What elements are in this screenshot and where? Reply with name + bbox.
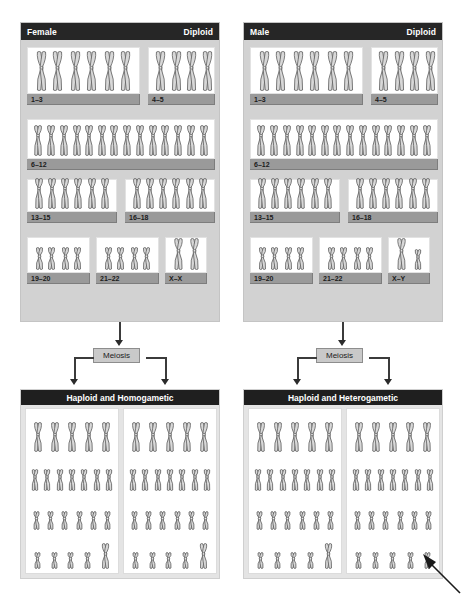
chromosome-icon xyxy=(326,247,337,270)
meiosis-label-box: Meiosis xyxy=(93,348,140,363)
chromosome-icon xyxy=(400,469,410,491)
arrowhead-icon xyxy=(384,379,392,385)
chromosome-icon xyxy=(423,51,438,91)
chromosome-icon xyxy=(315,469,325,491)
connector-line xyxy=(297,357,317,359)
chromosome-icon xyxy=(202,469,212,491)
chromosome-icon xyxy=(141,247,152,270)
chromosome-icon xyxy=(68,51,83,91)
male-ploidy-label: Diploid xyxy=(407,27,437,37)
chromosome-icon xyxy=(144,178,156,209)
chromosome-icon xyxy=(148,552,157,569)
chromosome-pair xyxy=(34,51,65,91)
chromosome-pair xyxy=(157,178,182,209)
chromosome-pair xyxy=(354,178,379,209)
chromosome-icon xyxy=(294,125,306,156)
gamete-chromosome-row xyxy=(350,452,436,491)
chromosome-icon xyxy=(86,178,98,209)
meiosis-label-box: Meiosis xyxy=(316,348,363,363)
chromosome-pair xyxy=(129,247,152,270)
chromosome-icon xyxy=(363,469,373,491)
chromosome-icon xyxy=(104,469,114,491)
chromosome-icon xyxy=(404,422,416,452)
chromosome-icon xyxy=(79,469,89,491)
chromosome-icon xyxy=(33,552,42,569)
chromosome-icon xyxy=(128,469,138,491)
chromosome-icon xyxy=(169,51,184,91)
chromosome-pair xyxy=(325,51,356,91)
chromosome-pair xyxy=(134,125,159,156)
chromosome-icon xyxy=(283,511,292,530)
group-label: 6–12 xyxy=(250,159,438,170)
chromosome-icon xyxy=(344,125,356,156)
chromosome-icon xyxy=(424,511,433,530)
chromosome-icon xyxy=(46,178,58,209)
chromosome-group-21-22: 21–22 xyxy=(96,237,159,284)
chromosome-icon xyxy=(188,238,201,270)
chromosome-icon xyxy=(387,422,399,452)
connector-line xyxy=(388,357,390,381)
chromosome-icon xyxy=(325,51,340,91)
chromosome-icon xyxy=(172,125,184,156)
chromosome-icon xyxy=(302,469,312,491)
group-label: 16–18 xyxy=(348,212,438,223)
chromosome-icon xyxy=(253,469,263,491)
gamete-chromosome-row xyxy=(29,413,115,452)
chromosome-icon xyxy=(89,511,98,530)
chromosome-group-sex-xx: X–X xyxy=(165,237,207,284)
chromosome-icon xyxy=(353,511,362,530)
chromosome-icon xyxy=(395,238,408,270)
chromosome-icon xyxy=(118,51,133,91)
chromosome-icon xyxy=(268,125,280,156)
chromosome-pair xyxy=(376,51,407,91)
chromosome-group-6-12: 6–12 xyxy=(250,119,438,170)
group-label: 19–20 xyxy=(27,273,90,284)
chromosome-group-1-3: 1–3 xyxy=(250,47,363,105)
chromosome-pair xyxy=(408,125,433,156)
chromosome-icon xyxy=(187,511,196,530)
arrowhead-icon xyxy=(115,340,123,346)
chromosome-icon xyxy=(407,51,422,91)
chromosome-pair xyxy=(380,178,405,209)
chromosome-icon xyxy=(140,469,150,491)
chromosome-icon xyxy=(421,125,433,156)
chromosome-icon xyxy=(388,469,398,491)
chromosome-icon xyxy=(129,247,140,270)
arrowhead-icon xyxy=(293,379,301,385)
chromosome-icon xyxy=(341,51,356,91)
chromosome-icon xyxy=(197,178,209,209)
chromosome-group-13-15: 13–15 xyxy=(250,179,340,223)
chromosome-pair xyxy=(83,125,108,156)
chromosome-icon xyxy=(269,178,281,209)
chromosome-icon xyxy=(181,422,193,452)
chromosome-icon xyxy=(190,469,200,491)
chromosome-icon xyxy=(351,469,361,491)
female-panel-header: Female Diploid xyxy=(21,23,219,40)
chromosome-icon xyxy=(172,238,185,270)
chromosome-icon xyxy=(309,178,321,209)
chromosome-icon xyxy=(32,511,41,530)
group-label: 21–22 xyxy=(319,273,382,284)
chromosome-icon xyxy=(201,511,210,530)
chromosome-pair xyxy=(108,125,133,156)
chromosome-icon xyxy=(32,422,44,452)
chromosome-icon xyxy=(50,51,65,91)
connector-line xyxy=(74,357,76,381)
gamete-cell xyxy=(25,408,119,574)
group-label: 4–5 xyxy=(148,94,215,105)
arrowhead-icon xyxy=(70,379,78,385)
chromosome-icon xyxy=(352,247,363,270)
chromosome-pair xyxy=(407,51,438,91)
chromosome-pair xyxy=(60,247,83,270)
chromosome-pair xyxy=(282,178,307,209)
chromosome-icon xyxy=(66,422,78,452)
chromosome-pair xyxy=(309,178,334,209)
chromosome-icon xyxy=(60,247,71,270)
chromosome-pair xyxy=(58,125,83,156)
chromosome-icon xyxy=(367,178,379,209)
female-diploid-panel: Female Diploid 1–3 4–5 6–12 1 xyxy=(20,22,220,322)
chromosome-group-13-15: 13–15 xyxy=(27,179,117,223)
chromosome-icon xyxy=(354,552,363,569)
chromosome-icon xyxy=(96,125,108,156)
group-label: 16–18 xyxy=(125,212,215,223)
